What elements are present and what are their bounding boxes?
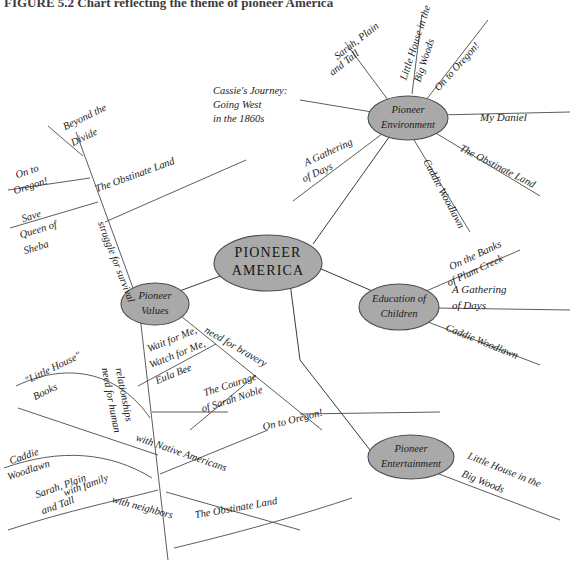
leaf-little-house-books-line2: Books	[31, 381, 59, 402]
leaf-on-to-oregon-env: On to Oregon!	[432, 40, 482, 93]
pioneer-entertainment-label-line1: Pioneer	[393, 443, 428, 454]
leaf-on-to-oregon-bravery: On to Oregon!	[261, 407, 324, 433]
branch-label-with-native-americans: with Native Americans	[135, 432, 229, 473]
mind-map-svg: PIONEER AMERICA Pioneer Environment Educ…	[0, 0, 570, 565]
pioneer-america-label-line2: AMERICA	[232, 263, 304, 278]
node-pioneer-environment[interactable]: Pioneer Environment	[368, 96, 448, 140]
leaf-caddie-woodlawn-edu: Caddie Woodlawn	[444, 322, 519, 361]
node-education-of-children[interactable]: Education of Children	[359, 284, 439, 330]
values-struggle-labels: Beyond the Divide On to Oregon! Save Que…	[12, 101, 177, 303]
leaf-beyond-the-divide-line1: Beyond the	[61, 101, 108, 132]
leaf-gathering-of-days-edu-line1: A Gathering	[451, 283, 507, 295]
branch-label-with-neighbors: with neighbors	[111, 494, 174, 521]
pioneer-environment-label-line2: Environment	[380, 119, 436, 130]
leaf-beyond-the-divide-line2: Divide	[68, 126, 99, 149]
leaf-gathering-of-days-edu-line2: of Days	[452, 299, 486, 311]
leaf-save-queen-sheba-line1: Save	[20, 208, 42, 224]
leaf-cassies-journey-line1: Cassie's Journey:	[213, 85, 287, 96]
pioneer-environment-label-line1: Pioneer	[390, 104, 425, 115]
leaf-my-daniel: My Daniel	[479, 111, 527, 123]
edge-rel-family	[18, 408, 158, 455]
mind-map-canvas: FIGURE 5.2 Chart reflecting the theme of…	[0, 0, 570, 565]
center-spokes	[155, 133, 400, 450]
branch-label-need-for-bravery: need for bravery	[203, 324, 269, 369]
education-of-children-label-line2: Children	[381, 308, 418, 319]
entertainment-leaf-labels: Little House in the Big Woods	[460, 450, 543, 495]
leaf-caddie-woodlawn-env: Caddie Woodlawn	[421, 157, 467, 230]
edge-center-to-entertainment	[290, 283, 370, 450]
pioneer-values-label-line2: Values	[141, 305, 168, 316]
values-relationships-labels: need for human relationships "Little Hou…	[6, 349, 279, 520]
edge-env-cassie	[300, 100, 378, 113]
leaf-cassies-journey-line3: in the 1860s	[213, 113, 264, 124]
pioneer-america-label-line1: PIONEER	[235, 245, 302, 260]
pioneer-values-label-line1: Pioneer	[137, 290, 172, 301]
leaf-save-queen-sheba-line3: Sheba	[22, 238, 50, 256]
pioneer-environment-shape	[368, 96, 448, 140]
pioneer-entertainment-label-line2: Entertainment	[380, 458, 442, 469]
pioneer-entertainment-shape	[368, 435, 454, 479]
edge-struggle-obstinate	[105, 160, 246, 222]
node-pioneer-entertainment[interactable]: Pioneer Entertainment	[368, 435, 454, 479]
leaf-cassies-journey-line2: Going West	[213, 99, 262, 110]
node-pioneer-america[interactable]: PIONEER AMERICA	[214, 235, 322, 291]
education-of-children-shape	[359, 284, 439, 330]
education-of-children-label-line1: Education of	[371, 293, 428, 304]
branch-label-struggle-for-survival: struggle for survival	[96, 220, 137, 304]
leaf-obstinate-land-env: The Obstinate Land	[458, 142, 538, 190]
leaf-obstinate-land-relationships: The Obstinate Land	[194, 495, 279, 520]
education-leaf-labels: On the Banks of Plum Creek A Gathering o…	[444, 238, 519, 361]
leaf-obstinate-land-values: The Obstinate Land	[94, 155, 177, 194]
